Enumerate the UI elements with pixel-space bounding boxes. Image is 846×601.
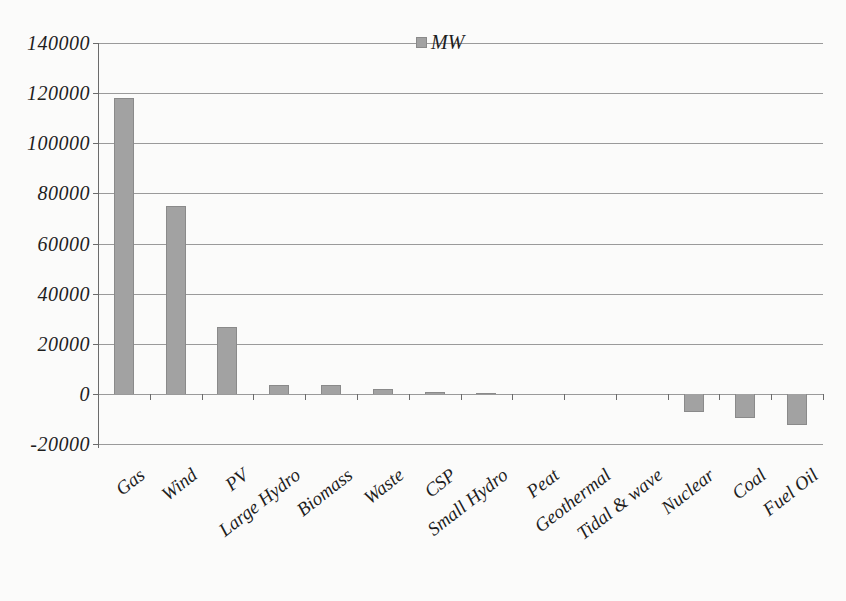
x-axis-tick: [771, 394, 772, 400]
x-category-label: CSP: [420, 464, 460, 501]
chart-legend: MW: [417, 31, 464, 53]
x-axis-tick: [616, 394, 617, 400]
bar-gas: [114, 98, 134, 394]
x-axis-tick: [668, 394, 669, 400]
x-category-label: Gas: [112, 464, 149, 499]
y-tick-label: -20000: [0, 432, 90, 456]
x-axis-tick: [202, 394, 203, 400]
y-tick-label: 120000: [0, 81, 90, 105]
y-tick-label: 20000: [0, 332, 90, 356]
y-axis-line: [98, 43, 99, 448]
bar-pv: [217, 327, 237, 393]
bar-biomass: [321, 385, 341, 394]
gridline: [98, 294, 823, 295]
gridline: [98, 444, 823, 445]
gridline: [98, 143, 823, 144]
x-axis-tick: [253, 394, 254, 400]
x-axis-tick: [512, 394, 513, 400]
bar-chart: MW 1400001200001000008000060000400002000…: [0, 0, 846, 601]
y-tick-label: 100000: [0, 131, 90, 155]
x-axis-tick: [150, 394, 151, 400]
x-category-label: Nuclear: [657, 464, 718, 518]
x-category-label: Peat: [523, 464, 563, 502]
gridline: [98, 93, 823, 94]
x-axis-tick: [461, 394, 462, 400]
x-axis-tick: [98, 394, 99, 400]
x-category-label: Waste: [360, 464, 408, 508]
y-tick-label: 40000: [0, 282, 90, 306]
bar-csp: [425, 392, 445, 394]
x-category-label: Fuel Oil: [759, 464, 822, 520]
y-tick-label: 0: [0, 382, 90, 406]
x-category-label: Biomass: [292, 464, 356, 520]
bar-nuclear: [684, 394, 704, 412]
bar-fuel-oil: [787, 394, 807, 425]
x-axis-tick: [719, 394, 720, 400]
gridline: [98, 193, 823, 194]
x-category-label: PV: [221, 464, 252, 495]
bar-coal: [735, 394, 755, 418]
legend-label: MW: [431, 31, 464, 53]
x-axis-tick: [564, 394, 565, 400]
bar-wind: [166, 206, 186, 393]
x-axis-tick: [823, 394, 824, 400]
gridline: [98, 344, 823, 345]
x-axis-tick: [409, 394, 410, 400]
x-axis-tick: [357, 394, 358, 400]
bar-large-hydro: [269, 385, 289, 394]
x-category-label: Wind: [157, 464, 201, 505]
y-tick-label: 60000: [0, 232, 90, 256]
bar-small-hydro: [476, 393, 496, 394]
y-tick-label: 80000: [0, 181, 90, 205]
legend-marker-icon: [417, 38, 426, 47]
gridline: [98, 244, 823, 245]
y-tick-label: 140000: [0, 31, 90, 55]
x-axis-tick: [305, 394, 306, 400]
bar-waste: [373, 389, 393, 394]
